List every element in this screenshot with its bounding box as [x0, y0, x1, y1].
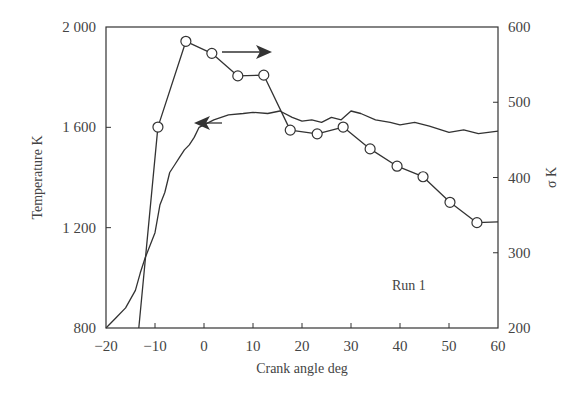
- x-tick-label: 60: [491, 338, 506, 354]
- sigma-marker: [259, 70, 269, 80]
- y-left-tick-label: 2 000: [62, 19, 96, 35]
- sigma-marker: [181, 36, 191, 46]
- y-left-tick-label: 1 600: [62, 119, 96, 135]
- y-right-tick-label: 400: [508, 170, 531, 186]
- x-tick-label: −10: [143, 338, 166, 354]
- x-tick-label: 0: [200, 338, 208, 354]
- y-right-axis-title: σ K: [544, 167, 559, 188]
- x-tick-label: −20: [94, 338, 117, 354]
- data-series: [106, 36, 498, 328]
- x-tick-label: 30: [344, 338, 359, 354]
- x-tick-label: 50: [442, 338, 457, 354]
- sigma-marker: [153, 122, 163, 132]
- y-left-tick-label: 800: [74, 320, 97, 336]
- sigma-marker: [418, 172, 428, 182]
- sigma-marker: [472, 218, 482, 228]
- y-right-tick-label: 300: [508, 245, 531, 261]
- y-right-tick-label: 600: [508, 19, 531, 35]
- temperature-line: [106, 111, 498, 328]
- sigma-marker: [392, 161, 402, 171]
- sigma-marker: [338, 122, 348, 132]
- sigma-line: [139, 41, 498, 328]
- run-annotation: Run 1: [392, 278, 426, 293]
- chart: −20−1001020304050608001 2001 6002 000200…: [0, 0, 585, 400]
- plot-border: [106, 27, 498, 328]
- y-left-axis-title: Temperature K: [30, 135, 45, 219]
- y-right-tick-label: 200: [508, 320, 531, 336]
- sigma-marker: [445, 197, 455, 207]
- plot-frame: [106, 27, 498, 328]
- axis-arrows: [194, 45, 272, 130]
- axis-ticks: −20−1001020304050608001 2001 6002 000200…: [62, 19, 530, 354]
- sigma-marker: [365, 144, 375, 154]
- x-axis-title: Crank angle deg: [256, 361, 348, 376]
- sigma-marker: [312, 129, 322, 139]
- y-left-tick-label: 1 200: [62, 220, 96, 236]
- x-tick-label: 10: [246, 338, 261, 354]
- x-tick-label: 20: [295, 338, 310, 354]
- sigma-marker: [207, 48, 217, 58]
- y-right-tick-label: 500: [508, 94, 531, 110]
- x-tick-label: 40: [393, 338, 408, 354]
- sigma-marker: [233, 71, 243, 81]
- sigma-marker: [285, 125, 295, 135]
